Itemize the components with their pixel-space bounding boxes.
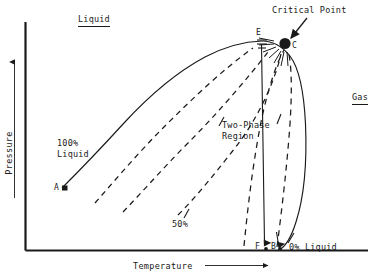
point-label-f: F [255, 242, 260, 252]
point-B-marker [278, 247, 282, 251]
point-label-e: E [256, 28, 261, 38]
point-label-a: A [54, 183, 59, 193]
point-label-c: C [292, 41, 297, 51]
pct-50-label: 50% [172, 219, 188, 229]
path-E-to-F [262, 44, 265, 243]
axis-frame [26, 22, 369, 251]
critical-point-marker [279, 38, 290, 49]
two-phase-region-label-line2: Region [222, 131, 254, 142]
pct100-leader [70, 160, 95, 183]
liquid-region-label: Liquid [78, 14, 110, 27]
critical-point-label: Critical Point [272, 5, 346, 15]
pct-0-liquid-label: 0% Liquid [289, 242, 337, 252]
gas-region-label: Gas [352, 92, 368, 105]
x-axis-title: Temperature [133, 261, 193, 271]
y-axis-title: Pressure [4, 131, 14, 174]
point-label-b: B [271, 242, 276, 252]
bubble-point-curve [62, 41, 262, 188]
point-A-marker [62, 186, 68, 191]
two-phase-region-label-line1: Two-Phase [222, 120, 270, 131]
pct-100-liquid-label-line1: 100% [57, 138, 78, 149]
critical-point-leader [291, 18, 307, 38]
quality-line-15 [277, 50, 291, 247]
dew-point-curve [262, 41, 306, 250]
pct50-leader [184, 209, 189, 218]
point-F-marker [264, 247, 268, 251]
phase-envelope-figure: Liquid Gas Critical Point Two-Phase Regi… [0, 0, 379, 278]
pct-100-liquid-label-line2: Liquid [57, 149, 89, 160]
quality-lines-right [244, 50, 291, 247]
